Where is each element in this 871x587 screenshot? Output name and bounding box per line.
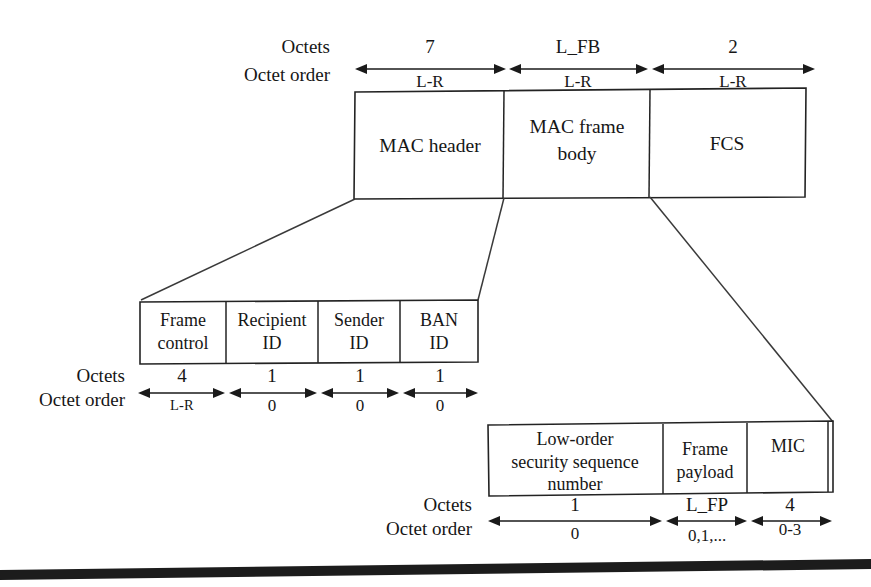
row1-field-1-octets: L_FB — [556, 36, 600, 57]
mac-frame-field-1-label-line1: MAC frame — [530, 116, 625, 137]
mac-frame-field-0-label-line1: MAC header — [379, 135, 481, 156]
row1-octet-order-label: Octet order — [244, 64, 331, 85]
mac-frame-format-diagram: Octets Octet order 7 L_FB 2 L-R L-R L-R — [0, 0, 871, 587]
row2-field-3-octets: 1 — [435, 365, 445, 386]
row3-octet-order-label: Octet order — [386, 518, 473, 539]
mac-header-field-3-label-line1: BAN — [420, 310, 458, 330]
row3-octets-label: Octets — [423, 494, 472, 515]
mac-header-field-2-label-line2: ID — [350, 333, 369, 353]
diagram-canvas: Octets Octet order 7 L_FB 2 L-R L-R L-R — [0, 0, 871, 587]
row3-field-0-octets: 1 — [570, 494, 580, 515]
row2-field-1-octet-order: 0 — [268, 396, 277, 415]
row2-field-0-octet-order: L-R — [170, 397, 194, 413]
mac-frame-body-field-0-label-line3: number — [548, 474, 603, 494]
mac-frame-field-2-label-line1: FCS — [710, 133, 745, 154]
mac-frame-body-field-1-label-line2: payload — [677, 462, 734, 482]
mac-header-field-2-label-line1: Sender — [334, 310, 384, 330]
row2-octets-label: Octets — [76, 365, 125, 386]
row1-field-0-octets: 7 — [425, 36, 435, 57]
mac-frame-body-expansion-connectors — [650, 197, 833, 422]
row1-field-2-octets: 2 — [728, 36, 738, 57]
mac-frame-body-field-2-label-line1: MIC — [771, 436, 805, 456]
row2-field-2-octets: 1 — [355, 365, 365, 386]
row3-field-1-octet-order: 0,1,... — [688, 526, 726, 545]
row3-field-0-octet-order: 0 — [571, 524, 580, 543]
row1-field-0-octet-order: L-R — [416, 72, 444, 91]
row2-field-1-octets: 1 — [267, 365, 277, 386]
row2-field-2-octet-order: 0 — [356, 396, 365, 415]
mac-header-field-1-label-line1: Recipient — [238, 310, 307, 330]
mac-frame-body-field-1-label-line1: Frame — [682, 439, 728, 459]
row2-field-3-octet-order: 0 — [436, 396, 445, 415]
row1-octets-label: Octets — [281, 36, 330, 57]
mac-header-field-1-label-line2: ID — [263, 333, 282, 353]
row2-octet-order-label: Octet order — [39, 389, 126, 410]
mac-frame-body-field-0-label-line2: security sequence — [511, 452, 638, 472]
row3-field-2-octet-order: 0-3 — [779, 520, 802, 539]
row1-field-1-octet-order: L-R — [564, 72, 592, 91]
mac-frame-divider-2 — [649, 90, 650, 197]
mac-header-field-0-label-line2: control — [158, 333, 209, 353]
row2-field-0-octets: 4 — [177, 365, 187, 386]
page-bottom-rule — [0, 559, 871, 580]
mac-header-field-3-label-line2: ID — [430, 333, 449, 353]
mac-header-expansion-connectors — [141, 198, 504, 300]
row3-field-2-octets: 4 — [785, 494, 795, 515]
mac-frame-divider-1 — [503, 91, 504, 198]
mac-frame-body-field-0-label-line1: Low-order — [537, 429, 614, 449]
mac-header-field-0-label-line1: Frame — [160, 310, 206, 330]
mac-frame-field-1-label-line2: body — [558, 143, 597, 164]
row3-field-1-octets: L_FP — [686, 494, 728, 515]
